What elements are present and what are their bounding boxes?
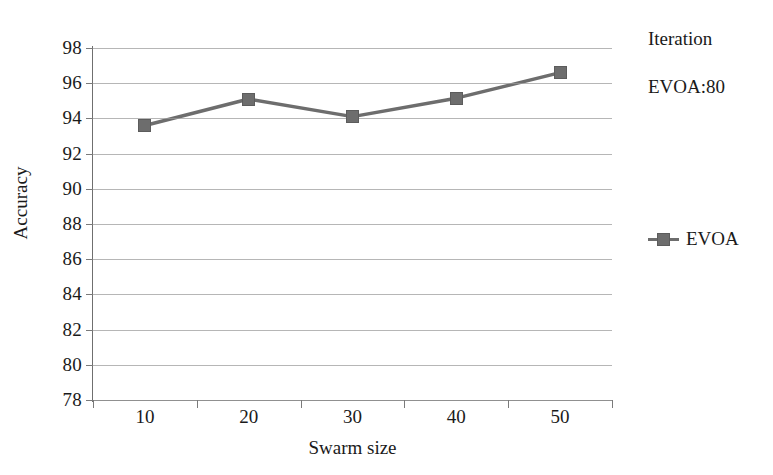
x-axis-tick (301, 400, 302, 408)
y-axis-tick-label: 96 (46, 73, 82, 92)
y-axis-tick (86, 224, 93, 225)
gridline (93, 330, 612, 331)
y-axis-tick (86, 154, 93, 155)
y-axis-tick (86, 400, 93, 401)
iteration-panel-value: EVOA:80 (648, 76, 725, 98)
gridline (93, 154, 612, 155)
legend-panel: Iteration EVOA:80 EVOA (612, 0, 773, 475)
y-axis-tick (86, 118, 93, 119)
x-axis-tick (404, 400, 405, 408)
gridline (93, 224, 612, 225)
y-axis-tick-label: 80 (46, 355, 82, 374)
y-axis-title: Accuracy (10, 143, 32, 263)
gridline (93, 83, 612, 84)
x-axis-tick-label: 50 (530, 406, 590, 428)
y-axis-tick-label: 98 (46, 38, 82, 57)
gridline (93, 294, 612, 295)
y-axis-tick-label: 94 (46, 108, 82, 127)
y-axis-tick-label: 84 (46, 284, 82, 303)
y-axis-tick-label: 78 (46, 390, 82, 409)
legend-marker-icon (648, 232, 679, 246)
legend-item-label: EVOA (686, 228, 739, 250)
plot-area (93, 48, 612, 400)
y-axis-tick (86, 48, 93, 49)
data-point-marker (554, 66, 567, 79)
legend-item-evoa: EVOA (648, 228, 739, 250)
x-axis-title: Swarm size (93, 437, 612, 459)
chart-figure: 9896949290888684828078 Accuracy 10203040… (0, 0, 773, 475)
gridline (93, 259, 612, 260)
y-axis-tick (86, 189, 93, 190)
y-axis-tick-label: 90 (46, 179, 82, 198)
data-point-marker (242, 93, 255, 106)
x-axis-tick-label: 20 (219, 406, 279, 428)
data-point-marker (346, 110, 359, 123)
y-axis-tick (86, 83, 93, 84)
y-axis-tick-labels: 9896949290888684828078 (40, 0, 82, 475)
iteration-panel-title: Iteration (648, 28, 712, 50)
y-axis-tick (86, 259, 93, 260)
gridline (93, 189, 612, 190)
y-axis-tick (86, 365, 93, 366)
x-axis-tick-label: 40 (426, 406, 486, 428)
data-point-marker (138, 119, 151, 132)
gridline (93, 365, 612, 366)
x-axis-tick (93, 400, 94, 408)
y-axis-tick-label: 88 (46, 214, 82, 233)
y-axis-tick (86, 294, 93, 295)
x-axis-tick (508, 400, 509, 408)
x-axis-tick-label: 30 (323, 406, 383, 428)
y-axis-tick-label: 92 (46, 144, 82, 163)
y-axis-tick-label: 86 (46, 249, 82, 268)
x-axis-tick-label: 10 (115, 406, 175, 428)
gridline (93, 48, 612, 49)
gridline (93, 400, 612, 401)
data-point-marker (450, 92, 463, 105)
y-axis-tick-label: 82 (46, 320, 82, 339)
y-axis-tick (86, 330, 93, 331)
x-axis-tick (197, 400, 198, 408)
